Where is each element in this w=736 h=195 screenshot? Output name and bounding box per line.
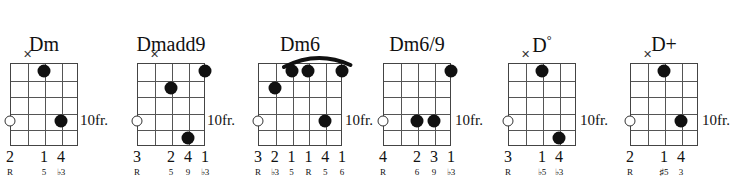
interval-label: 6	[415, 167, 420, 177]
fret-position-label: 10fr.	[455, 112, 483, 129]
finger-dot	[55, 115, 68, 128]
chord-name: Dmadd9	[117, 33, 225, 56]
interval-label: ♭3	[555, 167, 564, 177]
interval-label: ♭5	[538, 167, 547, 177]
fret-line	[384, 97, 450, 98]
finger-number: 3	[133, 148, 141, 166]
interval-label: R	[380, 167, 386, 177]
finger-dot	[658, 65, 671, 78]
finger-dot	[165, 81, 178, 94]
interval-label: ♭3	[447, 167, 456, 177]
interval-label: ♭3	[271, 167, 280, 177]
interval-label: R	[627, 167, 633, 177]
open-string-circle	[253, 116, 264, 127]
finger-dot	[182, 131, 195, 144]
string-line	[62, 64, 63, 145]
string-line	[326, 64, 327, 145]
fret-position-label: 10fr.	[207, 112, 235, 129]
fret-line	[11, 130, 77, 131]
finger-number: 1	[201, 148, 209, 166]
string-line	[401, 64, 402, 145]
interval-label: ♯5	[660, 167, 669, 177]
finger-number: 2	[6, 148, 14, 166]
fret-line	[631, 130, 697, 131]
fret-position-label: 10fr.	[80, 112, 108, 129]
finger-number: 4	[184, 148, 192, 166]
chord-diagram: Dmadd9✕3241R59♭310fr.	[125, 0, 250, 195]
finger-number: 1	[447, 148, 455, 166]
muted-string-icon: ✕	[23, 50, 32, 59]
interval-label: R	[255, 167, 261, 177]
muted-string-icon: ✕	[150, 50, 159, 59]
muted-string-icon: ✕	[643, 50, 652, 59]
muted-string-icon: ✕	[521, 50, 530, 59]
finger-dot	[675, 115, 688, 128]
chord-diagram: D°✕314R♭5♭310fr.	[496, 0, 618, 195]
open-string-circle	[5, 116, 16, 127]
fretboard-grid	[258, 63, 342, 146]
chord-diagram: Dm6/94231R69♭310fr.	[372, 0, 496, 195]
string-line	[155, 64, 156, 145]
fret-line	[509, 97, 575, 98]
interval-label: 5	[323, 167, 328, 177]
chord-name: Dm	[0, 33, 98, 56]
finger-dot	[38, 65, 51, 78]
string-line	[435, 64, 436, 145]
finger-number: 2	[167, 148, 175, 166]
finger-number: 1	[288, 148, 296, 166]
interval-label: R	[7, 167, 13, 177]
interval-label: ♭3	[201, 167, 210, 177]
finger-dot	[319, 115, 332, 128]
finger-number: 3	[430, 148, 438, 166]
finger-dot	[302, 65, 315, 78]
fret-line	[631, 81, 697, 82]
fret-line	[509, 81, 575, 82]
interval-label: R	[505, 167, 511, 177]
finger-number: 3	[504, 148, 512, 166]
finger-number: 1	[538, 148, 546, 166]
interval-label: 3	[679, 167, 684, 177]
string-line	[28, 64, 29, 145]
fret-line	[259, 97, 341, 98]
interval-label: 6	[340, 167, 345, 177]
chord-diagram: Dm✕214R5♭310fr.	[0, 0, 125, 195]
fretboard-grid	[383, 63, 451, 146]
finger-number: 4	[555, 148, 563, 166]
finger-dot	[553, 131, 566, 144]
chord-diagram: Dm6321141R♭35R5610fr.	[250, 0, 372, 195]
interval-label: R	[134, 167, 140, 177]
fret-line	[11, 114, 77, 115]
open-string-circle	[503, 116, 514, 127]
interval-label: 5	[169, 167, 174, 177]
interval-label: 5	[289, 167, 294, 177]
fret-line	[631, 114, 697, 115]
chord-diagram: D+✕214R♯5310fr.	[618, 0, 736, 195]
fret-line	[138, 130, 204, 131]
finger-dot	[336, 65, 349, 78]
finger-number: 2	[626, 148, 634, 166]
open-string-circle	[132, 116, 143, 127]
fret-line	[11, 81, 77, 82]
fret-line	[138, 114, 204, 115]
finger-number: 4	[379, 148, 387, 166]
finger-number: 1	[304, 148, 312, 166]
chord-name: Dm6/9	[363, 33, 471, 56]
finger-number: 4	[321, 148, 329, 166]
finger-number: 1	[660, 148, 668, 166]
open-string-circle	[378, 116, 389, 127]
string-line	[172, 64, 173, 145]
string-line	[418, 64, 419, 145]
string-line	[648, 64, 649, 145]
finger-number: 2	[413, 148, 421, 166]
fret-line	[138, 97, 204, 98]
string-line	[276, 64, 277, 145]
string-line	[526, 64, 527, 145]
fret-line	[384, 81, 450, 82]
fret-line	[384, 130, 450, 131]
finger-dot	[199, 65, 212, 78]
chord-name: D°	[488, 33, 596, 57]
finger-number: 4	[57, 148, 65, 166]
finger-dot	[445, 65, 458, 78]
finger-number: 1	[40, 148, 48, 166]
finger-dot	[268, 81, 281, 94]
